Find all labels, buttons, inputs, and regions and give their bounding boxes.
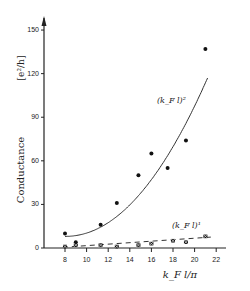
data-point-quadratic bbox=[149, 152, 153, 156]
x-tick-label: 18 bbox=[169, 256, 177, 263]
data-point-quadratic bbox=[136, 173, 140, 177]
data-point-quadratic bbox=[184, 138, 188, 142]
annotation-quadratic: (k_F l)² bbox=[157, 96, 186, 105]
x-tick-label: 14 bbox=[126, 256, 134, 263]
x-tick-label: 8 bbox=[63, 256, 67, 263]
data-point-quadratic bbox=[115, 201, 119, 205]
data-point-quadratic bbox=[63, 231, 67, 235]
y-tick-label: 150 bbox=[27, 26, 39, 33]
x-tick-label: 12 bbox=[104, 256, 112, 263]
x-tick-label: 20 bbox=[191, 256, 199, 263]
quadratic-fit-curve bbox=[65, 78, 208, 236]
y-tick-label: 0 bbox=[35, 244, 39, 251]
annotation-linear: (k_F l)¹ bbox=[172, 221, 201, 230]
conductance-chart: 0306090120150810121416182022Conductance[… bbox=[0, 0, 250, 291]
x-tick-label: 16 bbox=[148, 256, 156, 263]
chart-canvas: 0306090120150810121416182022Conductance[… bbox=[0, 0, 250, 291]
x-tick-label: 22 bbox=[212, 256, 220, 263]
y-axis-label: Conductance bbox=[15, 137, 26, 204]
x-tick-label: 10 bbox=[83, 256, 91, 263]
y-tick-label: 90 bbox=[31, 113, 39, 120]
data-point-quadratic bbox=[203, 47, 207, 51]
y-tick-label: 120 bbox=[27, 70, 39, 77]
y-axis-unit: [e²/h] bbox=[16, 56, 26, 81]
data-point-quadratic bbox=[166, 166, 170, 170]
y-tick-label: 30 bbox=[31, 200, 39, 207]
y-tick-label: 60 bbox=[31, 157, 39, 164]
data-point-quadratic bbox=[99, 223, 103, 227]
x-axis-label: k_F l/π bbox=[163, 269, 198, 281]
y-axis-arrow-icon bbox=[42, 16, 47, 26]
